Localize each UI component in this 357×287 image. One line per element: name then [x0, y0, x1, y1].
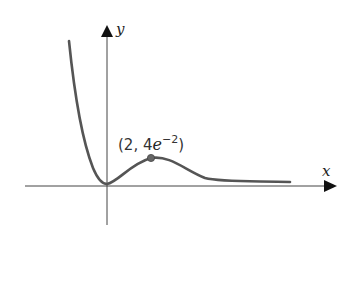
- point-label-e: e: [152, 135, 161, 154]
- y-axis-arrow-icon: [101, 25, 113, 37]
- maximum-point-label: (2, 4e−2): [118, 133, 184, 154]
- maximum-point-marker: [147, 154, 154, 161]
- point-label-exponent: −2: [162, 133, 178, 146]
- y-axis-label: y: [115, 20, 125, 38]
- point-label-suffix: ): [178, 136, 184, 154]
- x-axis-label: x: [322, 162, 331, 180]
- point-label-prefix: (2, 4: [118, 136, 152, 154]
- graph-canvas: y x (2, 4e−2): [0, 0, 357, 287]
- x-axis-arrow-icon: [324, 180, 337, 192]
- function-curve: [69, 41, 290, 184]
